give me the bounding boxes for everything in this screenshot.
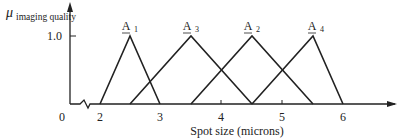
y-axis-label: μ [5, 5, 13, 20]
membership-function-chart: 1.0 μ imaging quality 0 2 3 4 5 6 Spot s… [0, 0, 397, 138]
y-tick-label-1: 1.0 [47, 29, 62, 43]
y-axis-arrow-icon [67, 2, 73, 12]
label-a4: A 4 [308, 19, 324, 34]
svg-text:A: A [122, 19, 131, 33]
svg-text:A: A [308, 19, 317, 33]
x-tick-label-5: 5 [279, 110, 285, 124]
x-tick-label-0: 0 [59, 110, 65, 124]
series-a3 [130, 36, 252, 104]
x-tick-label-3: 3 [157, 110, 163, 124]
label-a1: A 1 [122, 19, 138, 34]
label-a2: A 2 [244, 19, 260, 34]
series-a1 [100, 36, 160, 104]
svg-text:A: A [244, 19, 253, 33]
series-a4 [252, 36, 343, 104]
svg-text:1: 1 [134, 25, 138, 34]
svg-text:2: 2 [256, 25, 260, 34]
y-axis-label-sub: imaging quality [16, 12, 76, 22]
svg-text:A: A [183, 19, 192, 33]
x-tick-label-6: 6 [340, 110, 346, 124]
svg-text:3: 3 [195, 25, 199, 34]
x-axis-label: Spot size (microns) [190, 124, 283, 138]
x-axis-arrow-icon [387, 101, 397, 107]
svg-text:4: 4 [320, 25, 324, 34]
series-a2 [191, 36, 313, 104]
label-a3: A 3 [183, 19, 199, 34]
x-tick-label-2: 2 [97, 110, 103, 124]
x-axis-break [70, 100, 395, 108]
x-tick-label-4: 4 [218, 110, 224, 124]
